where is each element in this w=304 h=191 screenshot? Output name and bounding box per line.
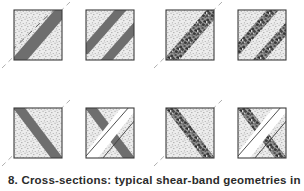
panel-6-graphic (72, 98, 148, 168)
diagram-panel-3 (166, 10, 214, 60)
diagram-panel-8 (238, 108, 286, 158)
diagram-panel-6 (86, 108, 134, 158)
diagram-panel-4 (238, 10, 286, 60)
diagram-panel-1 (14, 10, 62, 60)
panel-grid (0, 0, 304, 175)
panel-4-graphic (224, 0, 300, 70)
panel-5-graphic (0, 98, 76, 168)
panel-7-graphic (152, 98, 228, 168)
panel-3-graphic (152, 0, 228, 70)
diagram-panel-2 (86, 10, 134, 60)
diagram-panel-7 (166, 108, 214, 158)
panel-8-graphic (224, 98, 300, 168)
figure-caption: 8. Cross-sections: typical shear-band ge… (8, 176, 304, 187)
diagram-panel-5 (14, 108, 62, 158)
panel-2-graphic (72, 0, 148, 70)
panel-1-graphic (0, 0, 76, 70)
figure-caption-strip: 8. Cross-sections: typical shear-band ge… (0, 176, 304, 191)
figure-root: 8. Cross-sections: typical shear-band ge… (0, 0, 304, 191)
